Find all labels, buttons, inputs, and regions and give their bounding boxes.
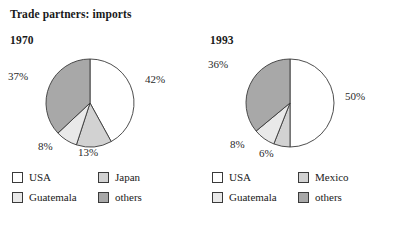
legend-label-others: others bbox=[315, 192, 342, 203]
legend-item-third-1993[interactable]: Mexico bbox=[298, 167, 384, 187]
legend-swatch-usa-icon bbox=[212, 172, 223, 183]
legend-swatch-third-icon bbox=[98, 172, 109, 183]
pie-chart-1970 bbox=[0, 30, 200, 165]
legend-1970: USA Japan Guatemala others bbox=[12, 167, 197, 207]
pie-slice-usa[interactable] bbox=[290, 59, 334, 147]
page-title: Trade partners: imports bbox=[10, 8, 132, 20]
chart-panel-1993: 1993 36% 50% 8% 6% USA Mexico Guatemala … bbox=[200, 30, 400, 230]
legend-swatch-usa-icon bbox=[12, 172, 23, 183]
legend-item-others-1970[interactable]: others bbox=[98, 187, 184, 207]
legend-swatch-guatemala-icon bbox=[212, 192, 223, 203]
pie-value-label-third-1993: 6% bbox=[259, 147, 274, 159]
legend-item-guatemala-1993[interactable]: Guatemala bbox=[212, 187, 298, 207]
pie-value-label-third-1970: 13% bbox=[78, 146, 98, 158]
legend-label-third: Mexico bbox=[315, 172, 349, 183]
legend-swatch-guatemala-icon bbox=[12, 192, 23, 203]
legend-label-guatemala: Guatemala bbox=[229, 192, 277, 203]
legend-item-others-1993[interactable]: others bbox=[298, 187, 384, 207]
pie-value-label-usa-1970: 42% bbox=[145, 73, 165, 85]
legend-item-guatemala-1970[interactable]: Guatemala bbox=[12, 187, 98, 207]
pie-value-label-guatemala-1970: 8% bbox=[38, 140, 53, 152]
legend-swatch-others-icon bbox=[298, 192, 309, 203]
pie-slice-group-1970 bbox=[46, 59, 134, 147]
legend-label-guatemala: Guatemala bbox=[29, 192, 77, 203]
pie-value-label-usa-1993: 50% bbox=[345, 90, 365, 102]
pie-value-label-guatemala-1993: 8% bbox=[230, 138, 245, 150]
legend-item-usa-1993[interactable]: USA bbox=[212, 167, 298, 187]
pie-svg-1970 bbox=[0, 30, 200, 165]
legend-item-usa-1970[interactable]: USA bbox=[12, 167, 98, 187]
legend-item-third-1970[interactable]: Japan bbox=[98, 167, 184, 187]
legend-label-third: Japan bbox=[115, 172, 140, 183]
chart-panel-1970: 1970 37% 42% 8% 13% USA Japan Guatemala … bbox=[0, 30, 200, 230]
pie-value-label-others-1993: 36% bbox=[208, 58, 228, 70]
pie-slice-group-1993 bbox=[246, 59, 334, 147]
pie-value-label-others-1970: 37% bbox=[8, 70, 28, 82]
legend-1993: USA Mexico Guatemala others bbox=[212, 167, 397, 207]
legend-swatch-third-icon bbox=[298, 172, 309, 183]
legend-label-usa: USA bbox=[229, 172, 251, 183]
legend-label-usa: USA bbox=[29, 172, 51, 183]
legend-swatch-others-icon bbox=[98, 192, 109, 203]
legend-label-others: others bbox=[115, 192, 142, 203]
